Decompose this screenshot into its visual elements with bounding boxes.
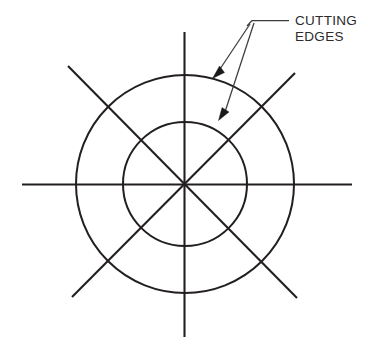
spoke-group (22, 32, 352, 337)
callout-text-group: CUTTING EDGES (295, 13, 357, 44)
diagonal-nw-se-line (68, 66, 297, 298)
arrowhead-outer-circle (213, 66, 225, 79)
arrowhead-inner-circle (219, 108, 230, 121)
callout-leader-group (213, 21, 290, 121)
callout-label-line2: EDGES (295, 29, 344, 44)
diagram-canvas: CUTTING EDGES (0, 0, 368, 347)
leader-to-inner-circle (224, 23, 254, 115)
cutting-edges-diagram: CUTTING EDGES (0, 0, 368, 347)
callout-label-line1: CUTTING (295, 13, 357, 28)
